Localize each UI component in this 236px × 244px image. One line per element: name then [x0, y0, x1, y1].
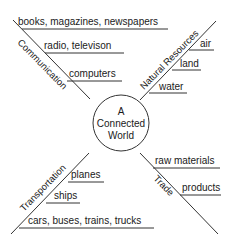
item-raw-materials: raw materials	[155, 155, 214, 166]
center-line-1: A	[118, 106, 125, 117]
item-land: land	[180, 58, 199, 69]
item-products: products	[182, 182, 220, 193]
item-air: air	[200, 38, 212, 49]
center-line-2: Connected	[97, 118, 145, 129]
item-cars: cars, buses, trains, trucks	[28, 215, 141, 226]
item-water: water	[158, 81, 184, 92]
trade-label: Trade	[152, 173, 177, 198]
branch-natural-resources: Natural Resources air land water	[138, 21, 216, 100]
item-planes: planes	[71, 169, 100, 180]
item-computers: computers	[69, 68, 116, 79]
communication-spoke	[13, 20, 90, 99]
item-books: books, magazines, newspapers	[18, 16, 158, 27]
transportation-label: Transportation	[18, 162, 68, 213]
center-line-3: World	[108, 130, 134, 141]
item-radio: radio, televison	[44, 40, 111, 51]
branch-transportation: Transportation planes ships cars, buses,…	[11, 153, 154, 234]
concept-map: A Connected World Communication books, m…	[0, 0, 236, 244]
concept-map-canvas: A Connected World Communication books, m…	[0, 0, 236, 244]
item-ships: ships	[54, 190, 77, 201]
branch-trade: Trade raw materials products	[140, 153, 221, 234]
